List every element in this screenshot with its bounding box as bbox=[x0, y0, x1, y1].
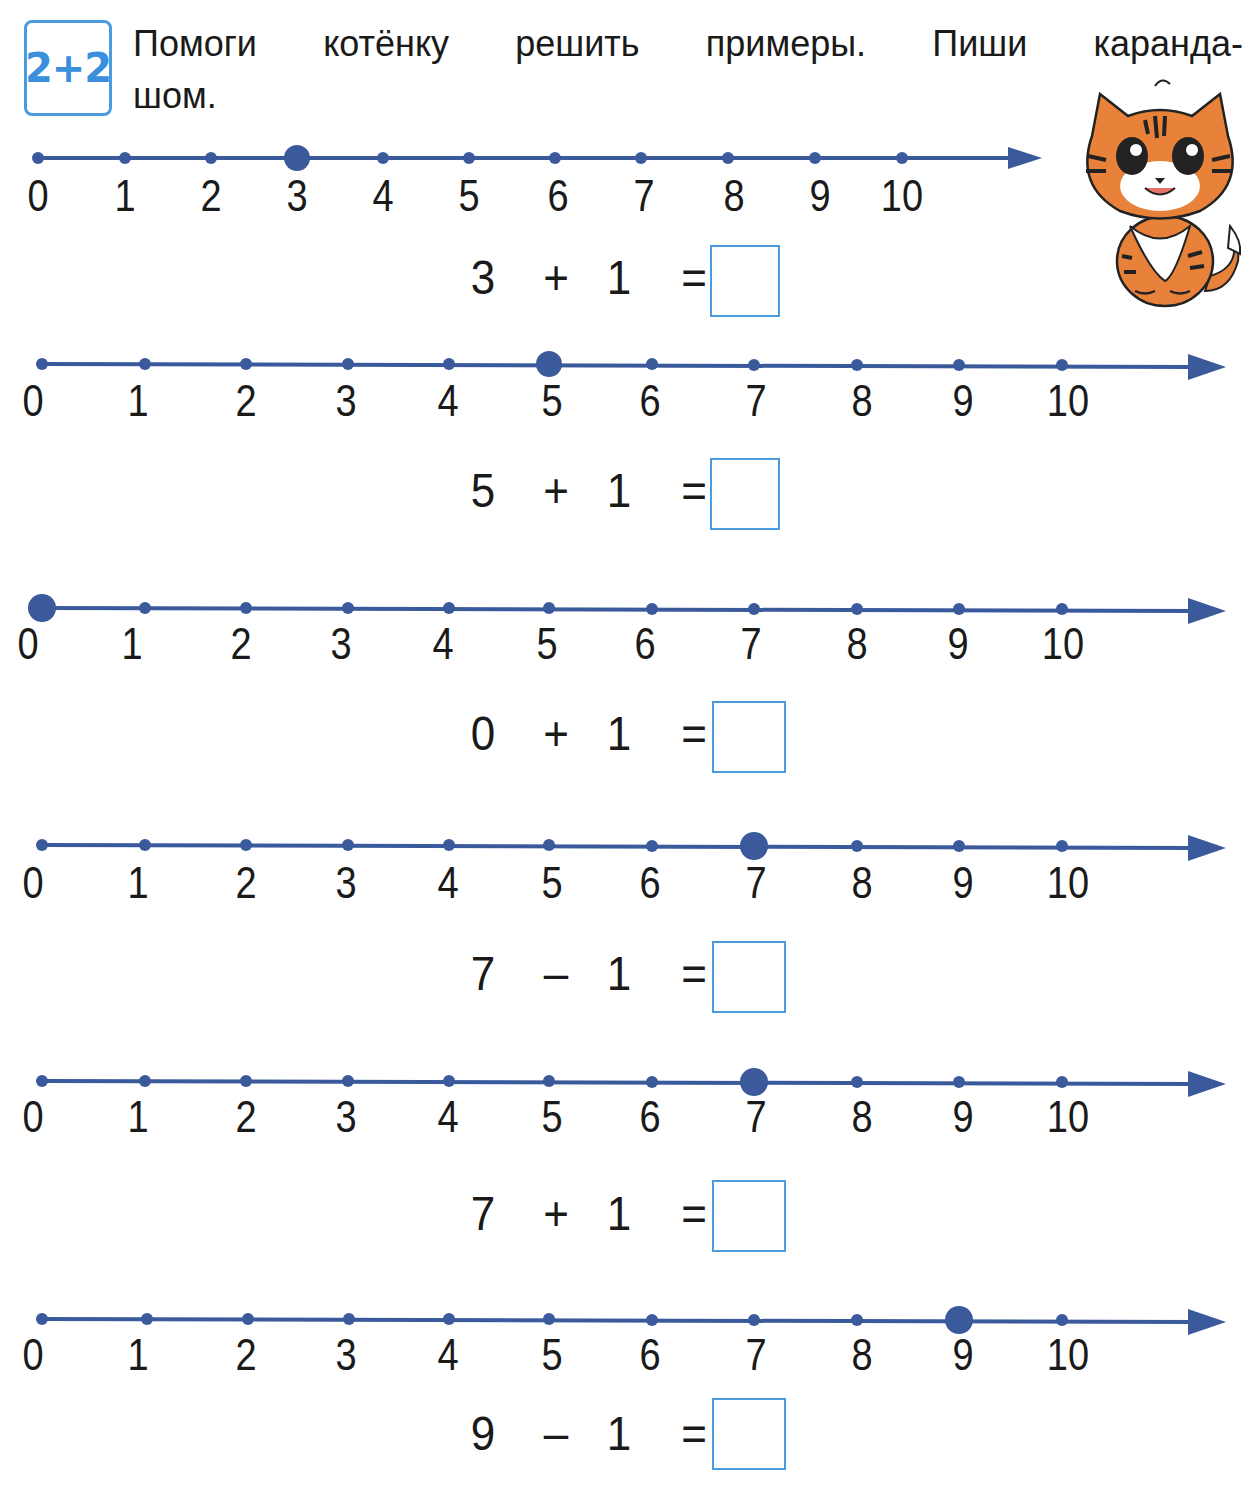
answer-box-5[interactable] bbox=[712, 1180, 786, 1252]
tick-label: 9 bbox=[952, 1331, 973, 1380]
equation-1: 3 + 1 = bbox=[468, 250, 714, 305]
tick-label: 4 bbox=[432, 620, 453, 669]
tick-label: 5 bbox=[536, 620, 557, 669]
number-line-3: 0 1 2 3 4 5 6 7 8 9 10 bbox=[0, 565, 1257, 655]
equation-2: 5 + 1 = bbox=[468, 463, 714, 518]
tick-label: 2 bbox=[235, 1331, 256, 1380]
tick-label: 10 bbox=[1042, 620, 1084, 669]
number-line-5: 0 1 2 3 4 5 6 7 8 9 10 bbox=[0, 1038, 1257, 1128]
instruction-text: Помоги котёнку решить примеры. Пиши кара… bbox=[133, 18, 1243, 70]
tick-label: 0 bbox=[22, 1093, 43, 1142]
operand-b: 1 bbox=[604, 463, 634, 518]
tick-label: 6 bbox=[634, 620, 655, 669]
operator: + bbox=[526, 1186, 586, 1241]
operand-a: 3 bbox=[468, 250, 498, 305]
tick-label: 4 bbox=[372, 172, 393, 221]
number-line-6: 0 1 2 3 4 5 6 7 8 9 10 bbox=[0, 1276, 1257, 1366]
operand-a: 7 bbox=[468, 1186, 498, 1241]
operand-b: 1 bbox=[604, 706, 634, 761]
tick-label: 3 bbox=[335, 859, 356, 908]
tick-label: 5 bbox=[541, 1331, 562, 1380]
number-line-1: 0 1 2 3 4 5 6 7 8 9 10 bbox=[0, 115, 1257, 205]
tick-label: 10 bbox=[1047, 1331, 1089, 1380]
tick-label: 10 bbox=[1047, 859, 1089, 908]
tick-label: 4 bbox=[437, 1093, 458, 1142]
badge-label: 2+2 bbox=[25, 45, 111, 91]
number-line-graphic bbox=[0, 115, 1257, 205]
tick-label: 8 bbox=[851, 377, 872, 426]
equals-sign: = bbox=[674, 946, 714, 1001]
tick-label: 3 bbox=[286, 172, 307, 221]
tick-label: 3 bbox=[335, 1093, 356, 1142]
operand-a: 5 bbox=[468, 463, 498, 518]
answer-box-6[interactable] bbox=[712, 1398, 786, 1470]
tick-label: 9 bbox=[952, 859, 973, 908]
tick-label: 0 bbox=[22, 377, 43, 426]
tick-label: 4 bbox=[437, 1331, 458, 1380]
tick-label: 3 bbox=[335, 1331, 356, 1380]
tick-label: 7 bbox=[745, 859, 766, 908]
tick-label: 10 bbox=[1047, 1093, 1089, 1142]
tick-label: 1 bbox=[121, 620, 142, 669]
tick-label: 8 bbox=[723, 172, 744, 221]
tick-label: 5 bbox=[541, 1093, 562, 1142]
equals-sign: = bbox=[674, 706, 714, 761]
tick-label: 8 bbox=[851, 859, 872, 908]
tick-label: 0 bbox=[22, 859, 43, 908]
operand-b: 1 bbox=[604, 1186, 634, 1241]
tick-label: 0 bbox=[22, 1331, 43, 1380]
tick-label: 4 bbox=[437, 377, 458, 426]
tick-label: 6 bbox=[639, 377, 660, 426]
equation-6: 9 – 1 = bbox=[468, 1406, 714, 1461]
tick-label: 2 bbox=[235, 1093, 256, 1142]
operator: – bbox=[526, 946, 586, 1001]
tick-label: 6 bbox=[639, 1093, 660, 1142]
tick-label: 9 bbox=[809, 172, 830, 221]
tick-label: 1 bbox=[127, 1331, 148, 1380]
operand-a: 7 bbox=[468, 946, 498, 1001]
tick-label: 2 bbox=[230, 620, 251, 669]
operand-a: 9 bbox=[468, 1406, 498, 1461]
tick-label: 3 bbox=[335, 377, 356, 426]
operand-b: 1 bbox=[604, 946, 634, 1001]
operand-a: 0 bbox=[468, 706, 498, 761]
tick-label: 8 bbox=[846, 620, 867, 669]
tick-label: 10 bbox=[1047, 377, 1089, 426]
tick-label: 7 bbox=[745, 1331, 766, 1380]
tick-label: 8 bbox=[851, 1331, 872, 1380]
equation-4: 7 – 1 = bbox=[468, 946, 714, 1001]
tick-label: 5 bbox=[541, 377, 562, 426]
tick-label: 0 bbox=[27, 172, 48, 221]
equals-sign: = bbox=[674, 1186, 714, 1241]
tick-label: 5 bbox=[458, 172, 479, 221]
tick-label: 9 bbox=[952, 1093, 973, 1142]
tick-label: 5 bbox=[541, 859, 562, 908]
number-line-4: 0 1 2 3 4 5 6 7 8 9 10 bbox=[0, 802, 1257, 892]
operator: – bbox=[526, 1406, 586, 1461]
answer-box-3[interactable] bbox=[712, 701, 786, 773]
tick-label: 2 bbox=[235, 377, 256, 426]
number-line-2: 0 1 2 3 4 5 6 7 8 9 10 bbox=[0, 320, 1257, 410]
operand-b: 1 bbox=[604, 1406, 634, 1461]
tick-label: 1 bbox=[114, 172, 135, 221]
operand-b: 1 bbox=[604, 250, 634, 305]
tick-label: 7 bbox=[633, 172, 654, 221]
exercise-type-badge: 2+2 bbox=[24, 20, 112, 116]
equals-sign: = bbox=[674, 463, 714, 518]
tick-label: 9 bbox=[947, 620, 968, 669]
answer-box-4[interactable] bbox=[712, 941, 786, 1013]
answer-box-2[interactable] bbox=[710, 458, 780, 530]
equals-sign: = bbox=[674, 250, 714, 305]
operator: + bbox=[526, 250, 586, 305]
equation-5: 7 + 1 = bbox=[468, 1186, 714, 1241]
tick-label: 1 bbox=[127, 1093, 148, 1142]
answer-box-1[interactable] bbox=[710, 245, 780, 317]
tick-label: 7 bbox=[745, 1093, 766, 1142]
tick-label: 7 bbox=[740, 620, 761, 669]
tick-label: 1 bbox=[127, 859, 148, 908]
tick-label: 4 bbox=[437, 859, 458, 908]
tick-label: 7 bbox=[745, 377, 766, 426]
tick-label: 6 bbox=[547, 172, 568, 221]
equals-sign: = bbox=[674, 1406, 714, 1461]
tick-label: 8 bbox=[851, 1093, 872, 1142]
